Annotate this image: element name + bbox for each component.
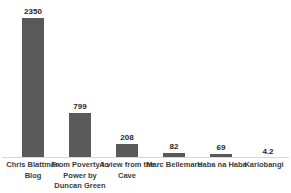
x-axis-line <box>2 157 289 158</box>
bar-stack: 82 <box>152 0 196 158</box>
bar-stack: 2350 <box>11 0 55 158</box>
bar-stack: 208 <box>105 0 149 158</box>
bar-column: 82 <box>152 0 196 158</box>
bar-column: 208 <box>105 0 149 158</box>
bar-stack: 799 <box>58 0 102 158</box>
bar-value-label: 82 <box>170 142 179 151</box>
bar-stack: 4.2 <box>246 0 290 158</box>
bar-rect[interactable] <box>69 113 91 158</box>
bar-value-label: 4.2 <box>262 147 273 156</box>
bar-value-label: 208 <box>120 133 133 142</box>
bar-column: 2350 <box>11 0 55 158</box>
bar-column: 4.2 <box>246 0 290 158</box>
plot-area: 2350 799 208 82 69 <box>0 0 291 158</box>
bar-column: 69 <box>199 0 243 158</box>
bar-value-label: 69 <box>217 143 226 152</box>
bar-rect[interactable] <box>22 18 44 158</box>
x-axis-tick-labels: Chris Blattman Blog From Poverty to Powe… <box>0 160 291 193</box>
x-tick-label: Kariobangi <box>238 160 290 171</box>
bar-stack: 69 <box>199 0 243 158</box>
bar-rect[interactable] <box>116 144 138 158</box>
bar-value-label: 2350 <box>24 7 42 16</box>
bar-column: 799 <box>58 0 102 158</box>
bar-value-label: 799 <box>73 102 86 111</box>
bar-chart: 2350 799 208 82 69 <box>0 0 291 193</box>
